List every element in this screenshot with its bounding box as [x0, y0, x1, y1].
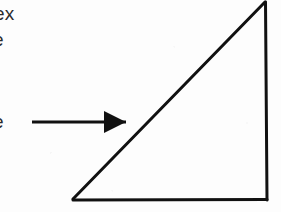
- margin-text-fragment-1: ex: [0, 4, 14, 23]
- margin-text-fragment-2: e: [0, 30, 4, 49]
- triangle-hypotenuse-line: [73, 2, 265, 199]
- figure-canvas: ex e e: [0, 0, 281, 212]
- arrow-head-icon: [104, 111, 126, 133]
- triangle-base-line: [73, 200, 267, 201]
- triangle-right-side-line: [266, 2, 268, 200]
- margin-text-fragment-3: e: [0, 112, 4, 131]
- pointer-arrow: [32, 111, 126, 133]
- line-drawing-svg: [0, 0, 281, 212]
- right-triangle: [73, 2, 267, 200]
